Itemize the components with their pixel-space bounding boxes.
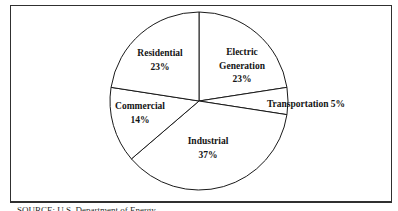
slice-label-line: Generation xyxy=(219,59,265,73)
source-note: SOURCE: U.S. Department of Energy xyxy=(17,205,156,211)
slice-label-line: Commercial xyxy=(115,100,165,114)
slice-label-residential: Residential23% xyxy=(137,47,182,74)
slice-label-transportation: Transportation 5% xyxy=(267,98,345,112)
slice-label-line: Industrial xyxy=(188,135,229,149)
slice-label-electric-generation: ElectricGeneration23% xyxy=(219,46,265,87)
chart-page: ElectricGeneration23%Transportation 5%In… xyxy=(0,0,398,211)
slice-label-line: 23% xyxy=(219,73,265,87)
slice-label-line: 37% xyxy=(188,148,229,162)
slice-label-line: Transportation 5% xyxy=(267,98,345,112)
slice-label-commercial: Commercial14% xyxy=(115,100,165,127)
slice-label-line: 14% xyxy=(115,113,165,127)
slice-label-line: 23% xyxy=(137,60,182,74)
slice-labels: ElectricGeneration23%Transportation 5%In… xyxy=(0,0,398,211)
slice-label-line: Residential xyxy=(137,47,182,61)
slice-label-line: Electric xyxy=(219,46,265,60)
slice-label-industrial: Industrial37% xyxy=(188,135,229,162)
